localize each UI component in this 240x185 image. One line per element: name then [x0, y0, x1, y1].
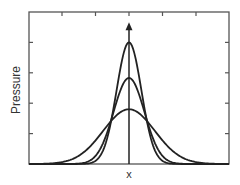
x-axis-label: x [126, 168, 132, 180]
y-axis-label: Pressure [9, 66, 23, 114]
arrow-head [126, 22, 133, 30]
pressure-chart [0, 0, 240, 185]
